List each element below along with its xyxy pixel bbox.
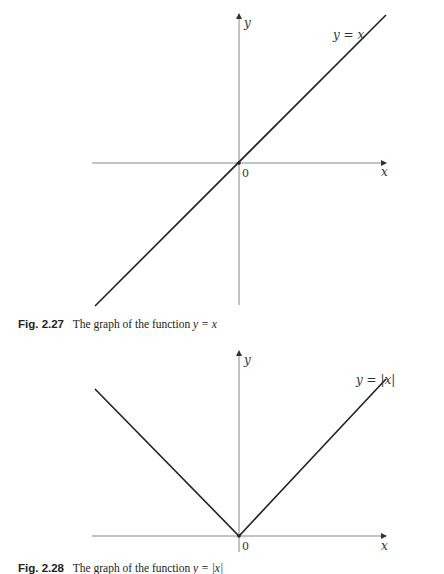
origin-point (237, 534, 241, 538)
figure-caption: Fig. 2.28 The graph of the function y = … (18, 562, 223, 574)
figure-number: Fig. 2.28 (18, 562, 64, 574)
caption-math: y = |x| (193, 562, 223, 574)
figure-caption: Fig. 2.27 The graph of the function y = … (18, 318, 217, 330)
curve-label: y = |x| (355, 373, 395, 387)
origin-label: 0 (242, 540, 249, 553)
x-axis-label: x (381, 165, 388, 179)
origin-label: 0 (242, 167, 249, 180)
curve-label: y = x (332, 28, 364, 42)
figure-2-27-plot: y x 0 y = x (92, 14, 388, 306)
caption-math: y = x (193, 318, 217, 330)
x-axis-label: x (381, 539, 388, 553)
curve-y-equals-x (95, 15, 386, 306)
figure-2-28-plot: y x 0 y = |x| (92, 351, 395, 553)
caption-text: The graph of the function (73, 562, 191, 574)
origin-point (237, 161, 241, 165)
curve-y-equals-abs-x (95, 379, 386, 536)
y-axis-label: y (243, 16, 251, 30)
caption-text: The graph of the function (73, 318, 191, 330)
y-axis-label: y (243, 353, 251, 367)
figure-number: Fig. 2.27 (18, 318, 64, 330)
